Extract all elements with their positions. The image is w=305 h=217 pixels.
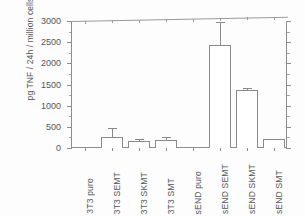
x-axis-labels: 3T3 puro3T3 SEMT3T3 SKMT3T3 SMTsEND puro… — [71, 152, 287, 216]
x-axis-label-3t3-puro: 3T3 puro — [85, 178, 95, 214]
top-tick-1 — [112, 20, 113, 23]
x-axis-label-send-skmt: sEND SKMT — [247, 164, 257, 214]
y-tick-500: 500 — [67, 127, 71, 128]
error-bar-cap-3 — [162, 137, 171, 138]
y-minor-tick-250 — [69, 137, 71, 138]
y-tick-right-1500 — [287, 85, 291, 86]
top-axis-line — [71, 17, 288, 22]
error-bar-stem-5 — [220, 22, 221, 45]
y-minor-tick-right-1750 — [287, 74, 290, 75]
error-bar-cap-5 — [216, 22, 225, 23]
x-label-wrap-5: sEND SEMT — [216, 152, 217, 214]
y-minor-tick-right-1250 — [287, 95, 290, 96]
y-axis-title: pg TNF / 24h / million cells — [25, 0, 35, 119]
x-label-wrap-4: sEND puro — [189, 152, 190, 214]
y-tick-label-0: 0 — [56, 143, 61, 153]
y-tick-label-500: 500 — [46, 122, 61, 132]
y-minor-tick-2250 — [69, 53, 71, 54]
error-bar-cap-2 — [135, 139, 144, 140]
top-tick-7 — [274, 17, 275, 20]
y-minor-tick-1750 — [69, 74, 71, 75]
y-tick-label-2500: 2500 — [41, 37, 61, 47]
y-minor-tick-750 — [69, 116, 71, 117]
y-tick-right-3000 — [287, 21, 291, 22]
y-tick-1000: 1000 — [67, 106, 71, 107]
y-minor-tick-right-250 — [287, 137, 290, 138]
y-tick-2500: 2500 — [67, 42, 71, 43]
x-axis-label-3t3-skmt: 3T3 SKMT — [139, 172, 149, 214]
y-tick-label-3000: 3000 — [41, 16, 61, 26]
plot-area: 050010001500200025003000 — [71, 21, 287, 148]
error-bar-stem-1 — [112, 128, 113, 137]
tnf-secretion-bar-chart: pg TNF / 24h / million cells 05001000150… — [0, 0, 305, 217]
y-tick-right-500 — [287, 127, 291, 128]
bar-send-semt — [209, 45, 231, 148]
y-tick-1500: 1500 — [67, 85, 71, 86]
x-axis-label-3t3-smt: 3T3 SMT — [166, 178, 176, 214]
x-tick-6 — [247, 148, 248, 151]
x-tick-0 — [85, 148, 86, 151]
error-bar-cap-1 — [108, 128, 117, 129]
top-tick-2 — [139, 20, 140, 23]
y-minor-tick-right-750 — [287, 116, 290, 117]
x-axis-label-send-semt: sEND SEMT — [220, 164, 230, 214]
x-axis-label-3t3-semt: 3T3 SEMT — [112, 172, 122, 214]
x-axis-label-send-puro: sEND puro — [193, 171, 203, 214]
x-tick-2 — [139, 148, 140, 151]
top-tick-3 — [166, 19, 167, 22]
y-tick-label-2000: 2000 — [41, 58, 61, 68]
x-label-wrap-2: 3T3 SKMT — [135, 152, 136, 214]
y-minor-tick-2750 — [69, 32, 71, 33]
bar-3t3-semt — [101, 137, 123, 148]
y-minor-tick-right-2750 — [287, 32, 290, 33]
y-tick-label-1000: 1000 — [41, 101, 61, 111]
x-label-wrap-3: 3T3 SMT — [162, 152, 163, 214]
top-tick-6 — [247, 17, 248, 20]
y-tick-right-0 — [287, 148, 291, 149]
y-tick-3000: 3000 — [67, 21, 71, 22]
bar-send-skmt — [236, 90, 258, 148]
x-label-wrap-1: 3T3 SEMT — [108, 152, 109, 214]
x-label-wrap-6: sEND SKMT — [243, 152, 244, 214]
y-tick-0: 0 — [67, 148, 71, 149]
x-tick-7 — [274, 148, 275, 151]
y-minor-tick-1250 — [69, 95, 71, 96]
x-tick-5 — [220, 148, 221, 151]
y-axis-line — [71, 21, 72, 149]
y-tick-label-1500: 1500 — [41, 80, 61, 90]
y-tick-2000: 2000 — [67, 63, 71, 64]
x-label-wrap-0: 3T3 puro — [81, 152, 82, 214]
top-tick-5 — [220, 18, 221, 21]
y-minor-tick-right-2250 — [287, 53, 290, 54]
x-tick-1 — [112, 148, 113, 151]
error-bar-cap-6 — [243, 88, 252, 89]
y-tick-right-2500 — [287, 42, 291, 43]
x-label-wrap-7: sEND SMT — [270, 152, 271, 214]
y-tick-right-1000 — [287, 106, 291, 107]
top-tick-4 — [193, 19, 194, 22]
x-tick-3 — [166, 148, 167, 151]
bar-send-smt — [263, 139, 285, 148]
bar-3t3-skmt — [128, 141, 150, 148]
x-tick-4 — [193, 148, 194, 151]
x-axis-label-send-smt: sEND SMT — [274, 170, 284, 214]
y-tick-right-2000 — [287, 63, 291, 64]
top-tick-0 — [85, 21, 86, 24]
bar-3t3-smt — [155, 140, 177, 148]
